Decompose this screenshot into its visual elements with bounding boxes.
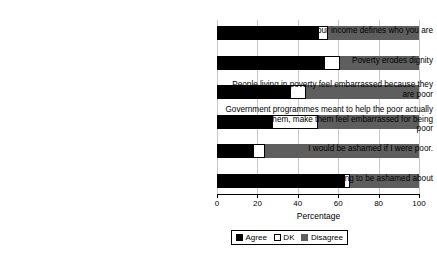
x-tick xyxy=(217,194,218,198)
x-tick-label: 60 xyxy=(334,199,343,208)
x-tick xyxy=(298,194,299,198)
category-label: Being poor is nothing to be ashamed abou… xyxy=(225,174,437,184)
grid-line xyxy=(217,20,218,194)
legend-item-agree: Agree xyxy=(236,233,267,242)
x-axis-line xyxy=(217,194,420,195)
category-label: Your income defines who you are xyxy=(225,26,437,36)
legend-swatch-disagree-icon xyxy=(301,234,308,241)
category-label: Government programmes meant to help the … xyxy=(225,105,437,134)
x-tick xyxy=(379,194,380,198)
x-tick-label: 0 xyxy=(215,199,219,208)
x-tick xyxy=(257,194,258,198)
legend-swatch-dk-icon xyxy=(274,234,281,241)
stacked-bar-chart: Your income defines who you arePoverty e… xyxy=(0,0,437,259)
x-tick-label: 100 xyxy=(412,199,425,208)
category-label: People living in poverty feel embarrasse… xyxy=(225,80,437,99)
x-axis-title: Percentage xyxy=(217,211,420,221)
category-label: Poverty erodes dignity xyxy=(225,56,437,66)
x-tick-label: 80 xyxy=(374,199,383,208)
chart-legend: Agree DK Disagree xyxy=(231,230,348,245)
legend-item-disagree: Disagree xyxy=(301,233,343,242)
legend-item-dk: DK xyxy=(274,233,295,242)
legend-label-agree: Agree xyxy=(246,233,267,242)
category-label: I would be ashamed if I were poor. xyxy=(225,144,437,154)
x-tick xyxy=(419,194,420,198)
x-tick xyxy=(338,194,339,198)
legend-label-disagree: Disagree xyxy=(311,233,343,242)
x-tick-label: 40 xyxy=(293,199,302,208)
x-tick-label: 20 xyxy=(253,199,262,208)
legend-swatch-agree-icon xyxy=(236,234,243,241)
legend-label-dk: DK xyxy=(283,233,294,242)
